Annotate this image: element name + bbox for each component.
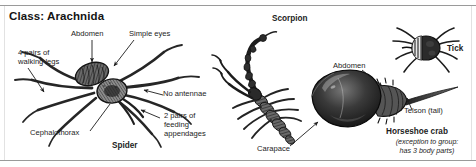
leader-carapace xyxy=(290,122,318,146)
leader-feeding-appendages xyxy=(141,110,160,118)
top-rule xyxy=(0,5,476,6)
label-cephalothorax: Cephalothorax xyxy=(30,128,79,137)
leader-no-antennae xyxy=(144,90,163,95)
scorpion-illustration xyxy=(212,32,301,146)
arachnida-figure: Class: Arachnida xyxy=(0,0,476,167)
label-feeding-appendages: 2 pairs of feeding appendages xyxy=(164,111,206,139)
label-spider-name: Spider xyxy=(112,141,137,150)
label-tick-name: Tick xyxy=(447,44,463,53)
label-horseshoe-crab-name: Horseshoe crab xyxy=(386,127,448,136)
label-scorpion-name: Scorpion xyxy=(272,14,307,23)
leader-simple-eyes xyxy=(114,40,134,66)
label-horseshoe-crab-note: (exception to group: has 3 body parts) xyxy=(381,138,473,155)
right-frame-line xyxy=(471,6,472,160)
label-telson: Telson (tail) xyxy=(404,106,443,115)
figure-title: Class: Arachnida xyxy=(9,10,104,22)
label-no-antennae: No antennae xyxy=(163,89,207,98)
label-simple-eyes: Simple eyes xyxy=(129,29,170,38)
leader-walking-legs xyxy=(28,68,44,92)
bottom-rule xyxy=(0,160,476,161)
horseshoe-crab-illustration xyxy=(312,70,458,127)
label-abdomen-crab: Abdomen xyxy=(333,61,366,70)
label-carapace: Carapace xyxy=(257,144,290,153)
left-frame-line xyxy=(4,6,5,160)
leader-abdomen-crab xyxy=(362,70,382,86)
label-abdomen-spider: Abdomen xyxy=(71,29,104,38)
label-walking-legs: 4 pairs of walking legs xyxy=(18,48,59,66)
leader-lines xyxy=(28,40,412,146)
leader-cephalothorax xyxy=(90,104,110,131)
